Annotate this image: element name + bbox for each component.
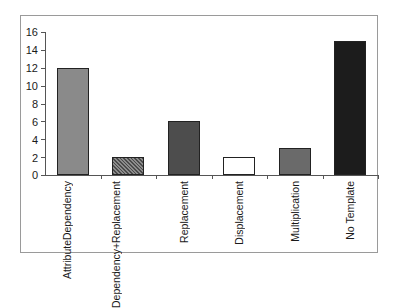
y-tick: [41, 50, 45, 51]
y-tick: [41, 68, 45, 69]
y-tick-label: 4: [14, 134, 38, 146]
x-category-label-line: Replacement: [178, 181, 190, 243]
y-tick: [41, 175, 45, 176]
y-tick: [41, 104, 45, 105]
y-tick-label: 10: [14, 80, 38, 92]
y-tick-label: 6: [14, 116, 38, 128]
x-tick: [267, 175, 268, 179]
y-tick-label: 16: [14, 26, 38, 38]
x-category-label-line: Multiplication: [289, 181, 301, 242]
y-tick-label: 14: [14, 44, 38, 56]
bar-displacement: [223, 157, 255, 175]
y-tick: [41, 157, 45, 158]
x-tick: [156, 175, 157, 179]
y-tick-label: 0: [14, 169, 38, 181]
y-axis-line: [45, 32, 46, 176]
x-category-label: Replacement: [178, 181, 190, 243]
x-category-label: Displacement: [233, 181, 245, 245]
bar-attribute-dependency: [57, 68, 89, 175]
x-category-label-line: Displacement: [233, 181, 245, 245]
x-tick: [101, 175, 102, 179]
x-category-label-line: Replacement: [110, 181, 122, 243]
bar-dependency-replacement: [112, 157, 144, 175]
y-tick-label: 12: [14, 62, 38, 74]
x-category-label: Dependency+Replacement: [110, 181, 122, 308]
x-category-label-line: No Template: [344, 181, 356, 240]
x-tick: [212, 175, 213, 179]
x-category-label: No Template: [344, 181, 356, 240]
y-tick: [41, 139, 45, 140]
x-category-label-line: Dependency: [110, 249, 122, 308]
y-tick-label: 8: [14, 98, 38, 110]
x-category-label: AttributeDependency: [61, 181, 73, 279]
x-category-label: Multiplication: [289, 181, 301, 242]
x-category-label-line: +: [110, 243, 122, 249]
x-category-label-line: Attribute: [61, 240, 73, 279]
y-tick: [41, 32, 45, 33]
y-tick: [41, 86, 45, 87]
bar-multiplication: [279, 148, 311, 175]
x-category-label-line: Dependency: [61, 181, 73, 240]
bar-no-template: [334, 41, 366, 175]
x-tick: [378, 175, 379, 179]
y-tick: [41, 121, 45, 122]
x-tick: [323, 175, 324, 179]
bar-replacement: [168, 121, 200, 175]
y-tick-label: 2: [14, 152, 38, 164]
